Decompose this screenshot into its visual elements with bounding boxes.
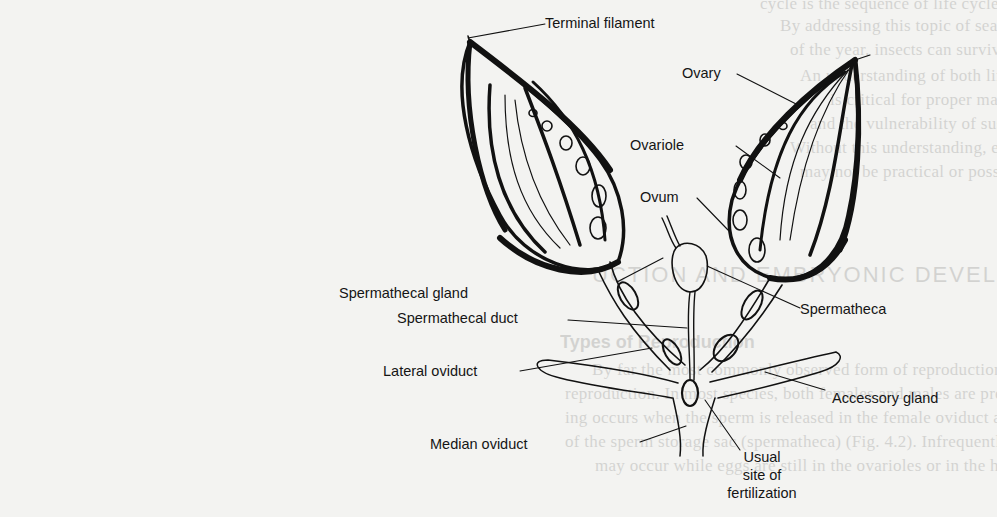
left-lateral-oviduct bbox=[598, 262, 685, 370]
terminal-filament-right bbox=[855, 55, 870, 60]
label-median-oviduct: Median oviduct bbox=[430, 437, 528, 452]
label-terminal-filament: Terminal filament bbox=[545, 16, 655, 31]
label-fertilization-site: Usual site of fertilization bbox=[717, 448, 807, 502]
left-ovary bbox=[462, 42, 624, 272]
label-ovum: Ovum bbox=[640, 190, 679, 205]
label-spermathecal-gland: Spermathecal gland bbox=[339, 286, 468, 301]
label-accessory-gland: Accessory gland bbox=[832, 391, 938, 406]
label-spermatheca: Spermatheca bbox=[800, 302, 886, 317]
right-ovary bbox=[729, 60, 858, 280]
label-lateral-oviduct: Lateral oviduct bbox=[383, 364, 477, 379]
label-ovariole: Ovariole bbox=[630, 138, 684, 153]
median-oviduct bbox=[673, 380, 715, 456]
spermatheca bbox=[662, 216, 707, 380]
label-fertilization-line: Usual bbox=[717, 448, 807, 466]
accessory-glands bbox=[537, 352, 840, 398]
label-fertilization-line: site of bbox=[717, 466, 807, 484]
label-spermathecal-duct: Spermathecal duct bbox=[397, 311, 518, 326]
right-lateral-oviduct bbox=[700, 278, 782, 372]
label-ovary: Ovary bbox=[682, 66, 721, 81]
label-fertilization-line: fertilization bbox=[717, 484, 807, 502]
